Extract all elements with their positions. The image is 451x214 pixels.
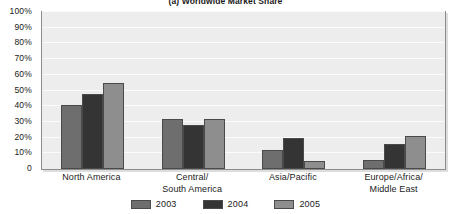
x-axis-category-line: Asia/Pacific <box>243 172 344 184</box>
y-axis-tick-label: 70% <box>14 53 32 63</box>
bar-2005 <box>405 136 426 169</box>
x-axis-labels: North AmericaCentral/South AmericaAsia/P… <box>41 172 444 200</box>
y-axis-tick-label: 30% <box>14 116 32 126</box>
x-axis-category-line: South America <box>142 184 243 196</box>
bar-group <box>262 12 325 169</box>
legend-label-2003: 2003 <box>156 199 177 209</box>
legend-swatch-2004 <box>203 200 223 209</box>
bars-layer <box>42 12 445 169</box>
legend-item-2004: 2004 <box>203 199 249 209</box>
chart-title: (a) Worldwide Market Share <box>0 0 451 6</box>
x-axis-category-line: North America <box>41 172 142 184</box>
bar-2003 <box>262 150 283 169</box>
y-axis: 100%90%80%70%60%50%40%30%20%10%0 <box>0 6 36 174</box>
y-axis-tick-label: 20% <box>14 132 32 142</box>
y-axis-tick-label: 0 <box>27 163 32 173</box>
bar-2004 <box>283 138 304 169</box>
x-axis-category-line: Europe/Africa/ <box>343 172 444 184</box>
bar-group <box>61 12 124 169</box>
x-axis-category-label: North America <box>41 172 142 184</box>
bar-group <box>363 12 426 169</box>
bar-2004 <box>384 144 405 169</box>
y-axis-tick-label: 10% <box>14 147 32 157</box>
y-axis-tick-label: 100% <box>9 6 32 16</box>
bar-2005 <box>103 83 124 169</box>
legend-label-2005: 2005 <box>299 199 320 209</box>
plot-area <box>41 11 446 170</box>
bar-2003 <box>363 160 384 169</box>
bar-2005 <box>204 119 225 169</box>
bar-2003 <box>162 119 183 169</box>
legend-item-2003: 2003 <box>131 199 177 209</box>
legend-swatch-2003 <box>131 200 151 209</box>
bar-chart-worldwide-market-share: (a) Worldwide Market Share 100%90%80%70%… <box>0 0 451 214</box>
bar-2004 <box>183 125 204 169</box>
x-axis-category-line: Central/ <box>142 172 243 184</box>
legend-swatch-2005 <box>274 200 294 209</box>
bar-group <box>162 12 225 169</box>
y-axis-tick-label: 50% <box>14 85 32 95</box>
legend-item-2005: 2005 <box>274 199 320 209</box>
bar-2003 <box>61 105 82 169</box>
chart-legend: 200320042005 <box>0 198 451 210</box>
x-axis-category-label: Asia/Pacific <box>243 172 344 184</box>
legend-label-2004: 2004 <box>228 199 249 209</box>
x-axis-category-line: Middle East <box>343 184 444 196</box>
y-axis-tick-label: 80% <box>14 37 32 47</box>
bar-2005 <box>304 161 325 169</box>
bar-2004 <box>82 94 103 169</box>
y-axis-tick-label: 40% <box>14 100 32 110</box>
y-axis-tick-label: 90% <box>14 22 32 32</box>
x-axis-category-label: Europe/Africa/Middle East <box>343 172 444 195</box>
x-axis-category-label: Central/South America <box>142 172 243 195</box>
y-axis-tick-label: 60% <box>14 69 32 79</box>
